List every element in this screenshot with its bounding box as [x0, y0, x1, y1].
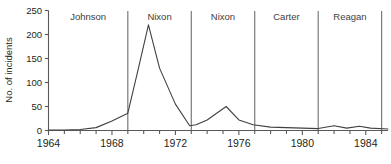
x-tick-label-1984: 1984	[354, 137, 378, 149]
y-tick-label-50: 50	[31, 101, 42, 112]
x-tick-label-1968: 1968	[100, 137, 124, 149]
term-label-nixon-1973: Nixon	[211, 11, 235, 22]
y-tick-label-100: 100	[26, 77, 42, 88]
chart-figure: 050100150200250 196419681972197619801984…	[0, 0, 391, 164]
x-axis-ticks-group	[49, 131, 382, 136]
y-axis-tick-labels: 050100150200250	[26, 5, 42, 136]
incidents-line-chart: 050100150200250 196419681972197619801984…	[0, 0, 391, 164]
y-tick-label-0: 0	[37, 125, 42, 136]
term-label-reagan-1981: Reagan	[333, 11, 366, 22]
term-labels: JohnsonNixonNixonCarterReagan	[70, 11, 366, 22]
incidents-series-line	[49, 25, 389, 130]
x-tick-label-1964: 1964	[37, 137, 61, 149]
x-tick-label-1980: 1980	[291, 137, 315, 149]
y-tick-label-250: 250	[26, 5, 42, 16]
term-label-carter-1977: Carter	[273, 11, 299, 22]
term-label-nixon-1969: Nixon	[147, 11, 171, 22]
term-divider-lines	[128, 11, 382, 131]
term-label-johnson-1964: Johnson	[70, 11, 106, 22]
y-tick-label-150: 150	[26, 53, 42, 64]
x-axis-tick-labels: 196419681972197619801984	[37, 137, 378, 149]
x-tick-label-1972: 1972	[164, 137, 188, 149]
x-tick-label-1976: 1976	[227, 137, 251, 149]
y-tick-label-200: 200	[26, 29, 42, 40]
y-axis-title: No. of incidents	[3, 37, 14, 103]
